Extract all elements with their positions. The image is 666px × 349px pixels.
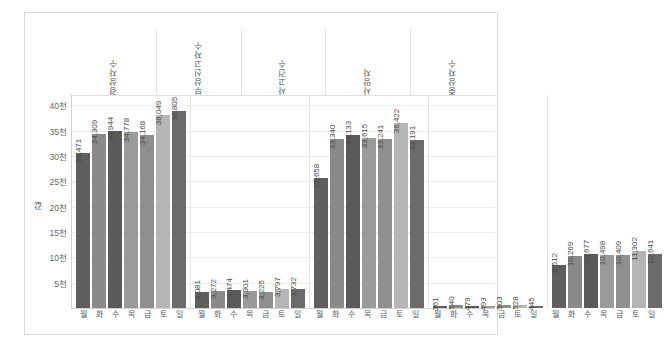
bar[interactable]: 10,409 bbox=[616, 255, 630, 308]
group-header-label: 부상신고자수 bbox=[193, 39, 205, 95]
bar-slot: 8,512 bbox=[552, 95, 566, 308]
bar[interactable]: 10,641 bbox=[648, 254, 662, 308]
bar-slot: 10,409 bbox=[616, 95, 630, 308]
x-tick-label: 수 bbox=[344, 308, 358, 338]
bar[interactable]: 38,805 bbox=[172, 111, 186, 308]
bar-value-label: 33,340 bbox=[329, 125, 337, 149]
x-tick-label: 수 bbox=[462, 308, 476, 338]
bar[interactable]: 34,944 bbox=[108, 131, 122, 308]
bar[interactable]: 30,471 bbox=[76, 153, 90, 308]
group-header-사고건수: 사고건수 bbox=[242, 29, 327, 95]
bar-value-label: 25,658 bbox=[313, 164, 321, 188]
bar-slot: 38,805 bbox=[172, 95, 186, 308]
bar-slot: 10,498 bbox=[600, 95, 614, 308]
bar-slot: 25,658 bbox=[314, 95, 328, 308]
bar[interactable]: 3,272 bbox=[211, 291, 225, 308]
bar-groups: 30,47134,30934,94434,77834,16838,04938,8… bbox=[72, 95, 495, 308]
x-tick-label: 화 bbox=[92, 308, 106, 338]
x-tick-label: 목 bbox=[242, 308, 256, 338]
bar-value-label: 3,797 bbox=[274, 277, 282, 297]
bar-slot: 10,641 bbox=[648, 95, 662, 308]
x-tick-labels: 월화수목금토일월화수목금토일월화수목금토일월화수목금토일월화수목금토일 bbox=[72, 308, 495, 338]
bar-value-label: 38,049 bbox=[155, 101, 163, 125]
x-tick-label: 화 bbox=[564, 308, 578, 338]
y-tick-label: 15천 bbox=[50, 226, 67, 238]
x-tick-label: 금 bbox=[258, 308, 272, 338]
bar[interactable]: 34,309 bbox=[92, 134, 106, 308]
x-tick-group: 월화수목금토일 bbox=[308, 308, 426, 338]
chart-frame: 값 경상자수부상신고자수사고건수사망자중상자수 5천10천15천20천25천30… bbox=[24, 12, 498, 335]
bar-slot: 33,241 bbox=[378, 95, 392, 308]
bar[interactable]: 34,778 bbox=[124, 132, 138, 308]
y-tick-label: 35천 bbox=[50, 125, 67, 137]
bar-slot: 3,301 bbox=[243, 95, 257, 308]
group-header-label: 사고건수 bbox=[277, 57, 289, 95]
bar[interactable]: 33,191 bbox=[410, 140, 424, 308]
x-tick-label: 일 bbox=[408, 308, 422, 338]
bar[interactable]: 25,658 bbox=[314, 178, 328, 308]
bar[interactable]: 3,081 bbox=[195, 292, 209, 308]
bar[interactable]: 8,512 bbox=[552, 265, 566, 308]
bar-value-label: 34,944 bbox=[107, 117, 115, 141]
bar-slot: 3,732 bbox=[291, 95, 305, 308]
x-tick-label: 일 bbox=[172, 308, 186, 338]
bar[interactable]: 10,269 bbox=[568, 256, 582, 308]
bar-slot: 528 bbox=[513, 95, 527, 308]
bar[interactable]: 36,422 bbox=[394, 123, 408, 308]
bar-slot: 34,778 bbox=[124, 95, 138, 308]
bar[interactable]: 10,498 bbox=[600, 255, 614, 308]
bar[interactable]: 3,225 bbox=[259, 292, 273, 308]
x-tick-label: 목 bbox=[124, 308, 138, 338]
y-tick-label: 20천 bbox=[50, 201, 67, 213]
bar[interactable]: 3,301 bbox=[243, 291, 257, 308]
x-tick-group: 월화수목금토일 bbox=[426, 308, 544, 338]
bar-slot: 34,944 bbox=[108, 95, 122, 308]
y-tick-label: 40천 bbox=[50, 99, 67, 111]
bar-group-부상신고자수: 3,0813,2723,4743,3013,2253,7973,732 bbox=[191, 95, 310, 308]
x-tick-label: 수 bbox=[226, 308, 240, 338]
x-tick-label: 월 bbox=[548, 308, 562, 338]
bar-slot: 33,615 bbox=[362, 95, 376, 308]
bar-value-label: 3,272 bbox=[210, 279, 218, 299]
bar[interactable]: 33,340 bbox=[330, 139, 344, 308]
x-tick-label: 일 bbox=[644, 308, 658, 338]
x-tick-label: 토 bbox=[510, 308, 524, 338]
x-tick-label: 수 bbox=[580, 308, 594, 338]
bar[interactable]: 3,732 bbox=[291, 289, 305, 308]
bar-value-label: 10,641 bbox=[647, 240, 655, 264]
bar-slot: 10,677 bbox=[584, 95, 598, 308]
bar-slot: 493 bbox=[481, 95, 495, 308]
group-header-부상신고자수: 부상신고자수 bbox=[157, 29, 242, 95]
bar-group-사망자: 361540479493503528445 bbox=[429, 95, 548, 308]
bar[interactable]: 38,049 bbox=[156, 115, 170, 308]
x-tick-label: 토 bbox=[392, 308, 406, 338]
bar-slot: 34,309 bbox=[92, 95, 106, 308]
bar-group-사고건수: 25,65833,34034,13333,61533,24136,42233,1… bbox=[310, 95, 429, 308]
bar[interactable]: 34,133 bbox=[346, 135, 360, 308]
bar[interactable]: 3,474 bbox=[227, 290, 241, 308]
x-tick-label: 월 bbox=[76, 308, 90, 338]
bar[interactable]: 33,615 bbox=[362, 138, 376, 308]
bar-value-label: 3,081 bbox=[194, 280, 202, 300]
bar-value-label: 8,512 bbox=[551, 253, 559, 273]
y-tick-label: 25천 bbox=[50, 175, 67, 187]
x-tick-label: 목 bbox=[596, 308, 610, 338]
bar-slot: 3,797 bbox=[275, 95, 289, 308]
y-tick-label: 30천 bbox=[50, 150, 67, 162]
x-tick-label: 목 bbox=[360, 308, 374, 338]
bar[interactable]: 10,677 bbox=[584, 254, 598, 308]
x-tick-label: 일 bbox=[526, 308, 540, 338]
group-header-중상자수: 중상자수 bbox=[411, 29, 495, 95]
x-tick-label: 월 bbox=[312, 308, 326, 338]
bar-value-label: 34,778 bbox=[123, 117, 131, 141]
bar-value-label: 30,471 bbox=[75, 139, 83, 163]
bar[interactable]: 34,168 bbox=[140, 135, 154, 308]
plot-area: 5천10천15천20천25천30천35천40천 30,47134,30934,9… bbox=[72, 95, 495, 308]
x-tick-label: 화 bbox=[328, 308, 342, 338]
bar-value-label: 3,732 bbox=[290, 277, 298, 297]
bar[interactable]: 11,302 bbox=[632, 251, 646, 308]
y-axis-title: 값 bbox=[33, 201, 45, 210]
x-tick-label: 월 bbox=[194, 308, 208, 338]
bar[interactable]: 33,241 bbox=[378, 139, 392, 308]
bar[interactable]: 3,797 bbox=[275, 289, 289, 308]
